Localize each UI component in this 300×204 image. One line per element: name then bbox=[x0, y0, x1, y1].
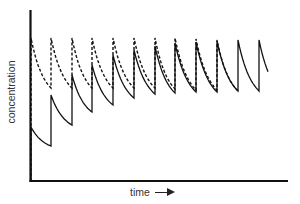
solid-series bbox=[31, 40, 268, 181]
chart-canvas bbox=[0, 0, 300, 204]
x-axis-label-text: time bbox=[130, 186, 150, 198]
right-arrow-icon bbox=[155, 188, 175, 196]
y-axis-label-text: concentration bbox=[5, 60, 17, 123]
solid-line bbox=[31, 40, 268, 181]
x-axis-label: time bbox=[130, 186, 175, 198]
